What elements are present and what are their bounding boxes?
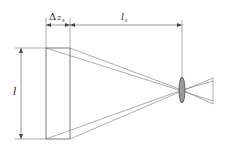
lens bbox=[179, 77, 185, 103]
delta-symbol: Δ bbox=[49, 11, 56, 22]
distance-sub: s bbox=[125, 17, 128, 23]
dimension-lines bbox=[21, 25, 182, 139]
rays bbox=[46, 48, 213, 139]
extension-lines bbox=[15, 18, 182, 139]
distance-var: l bbox=[121, 11, 124, 22]
delta-z-label: Δ z s bbox=[49, 11, 65, 23]
delta-sub: s bbox=[62, 17, 65, 23]
distance-label: l s bbox=[121, 11, 128, 23]
height-label: l bbox=[13, 85, 17, 98]
object-planes bbox=[46, 48, 70, 139]
optics-diagram: l Δ z s l s bbox=[0, 0, 225, 147]
